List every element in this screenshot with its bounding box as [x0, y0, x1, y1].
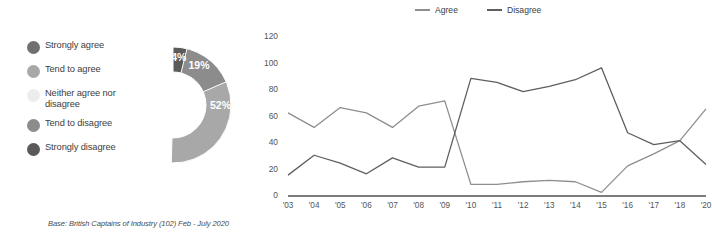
- donut-slice-label: 4%: [171, 51, 187, 63]
- donut-chart: 14%52%14%19%4%: [112, 44, 234, 166]
- x-axis-tick-label: '03: [283, 201, 294, 210]
- legend-swatch-icon: [27, 89, 40, 102]
- legend-line-icon: [415, 9, 430, 11]
- legend-item-label: Strongly agree: [45, 40, 104, 51]
- line-chart-legend: AgreeDisagree: [415, 5, 541, 15]
- donut-slice-label: 19%: [189, 59, 211, 71]
- legend-line-icon: [487, 9, 502, 11]
- donut-svg: 14%52%14%19%4%: [112, 44, 234, 166]
- x-axis-tick-label: '05: [335, 201, 346, 210]
- legend-swatch-icon: [27, 143, 40, 156]
- chart-legend-item[interactable]: Disagree: [487, 5, 541, 15]
- x-axis-tick-label: '07: [387, 201, 398, 210]
- x-axis-tick-label: '06: [361, 201, 372, 210]
- legend-item-label: Tend to disagree: [45, 118, 112, 129]
- x-axis-tick-label: '16: [622, 201, 633, 210]
- series-line[interactable]: [288, 101, 706, 192]
- donut-slice-label: 52%: [210, 99, 232, 111]
- x-axis-tick-label: '09: [439, 201, 450, 210]
- x-axis-tick-label: '20: [701, 201, 712, 210]
- infographic-root: Strongly agreeTend to agreeNeither agree…: [0, 0, 712, 247]
- legend-item-label: Strongly disagree: [45, 142, 116, 153]
- x-axis-tick-label: '14: [570, 201, 581, 210]
- plot-area: 020406080100120 '03'04'05'06'07'08'09'10…: [250, 36, 712, 221]
- series-lines: [250, 36, 712, 221]
- x-axis-tick-label: '17: [648, 201, 659, 210]
- chart-legend-label: Disagree: [507, 5, 541, 15]
- x-axis-tick-label: '13: [544, 201, 555, 210]
- x-axis-tick-label: '18: [675, 201, 686, 210]
- chart-legend-item[interactable]: Agree: [415, 5, 458, 15]
- x-axis-tick-label: '15: [596, 201, 607, 210]
- x-axis-tick-label: '04: [309, 201, 320, 210]
- legend-swatch-icon: [27, 41, 40, 54]
- x-axis-tick-label: '08: [413, 201, 424, 210]
- legend-item-label: Tend to agree: [45, 64, 101, 75]
- base-note: Base: British Captains of Industry (102)…: [48, 219, 229, 228]
- x-axis-tick-label: '11: [492, 201, 502, 210]
- x-axis-tick-label: '10: [466, 201, 477, 210]
- line-chart-panel: AgreeDisagree 020406080100120 '03'04'05'…: [250, 0, 712, 247]
- legend-swatch-icon: [27, 119, 40, 132]
- donut-panel: Strongly agreeTend to agreeNeither agree…: [0, 0, 250, 247]
- chart-legend-label: Agree: [435, 5, 458, 15]
- x-axis-tick-label: '12: [518, 201, 529, 210]
- legend-swatch-icon: [27, 65, 40, 78]
